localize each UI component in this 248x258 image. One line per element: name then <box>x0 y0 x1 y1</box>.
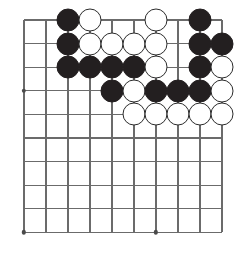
go-stone-black[interactable] <box>189 79 212 102</box>
go-stone-black[interactable] <box>79 56 102 79</box>
go-stone-white[interactable] <box>123 103 146 126</box>
star-point <box>22 230 26 234</box>
go-stone-black[interactable] <box>189 9 212 32</box>
go-stone-black[interactable] <box>123 56 146 79</box>
go-stone-white[interactable] <box>167 103 190 126</box>
grid-line-horizontal <box>24 232 222 233</box>
go-stone-black[interactable] <box>57 9 80 32</box>
go-stone-white[interactable] <box>145 32 168 55</box>
go-board-figure <box>0 0 248 258</box>
go-stone-black[interactable] <box>189 32 212 55</box>
go-stone-black[interactable] <box>189 56 212 79</box>
grid-line-horizontal <box>24 161 222 162</box>
go-stone-white[interactable] <box>145 56 168 79</box>
go-stone-white[interactable] <box>123 79 146 102</box>
star-point <box>22 89 26 93</box>
go-stone-black[interactable] <box>167 79 190 102</box>
go-stone-white[interactable] <box>79 32 102 55</box>
go-stone-white[interactable] <box>211 56 234 79</box>
grid-line-vertical <box>177 20 178 232</box>
go-stone-black[interactable] <box>101 79 124 102</box>
go-stone-black[interactable] <box>57 32 80 55</box>
go-stone-white[interactable] <box>123 32 146 55</box>
go-stone-white[interactable] <box>145 103 168 126</box>
go-stone-white[interactable] <box>79 9 102 32</box>
go-stone-white[interactable] <box>189 103 212 126</box>
go-stone-white[interactable] <box>211 79 234 102</box>
grid-line-horizontal <box>24 208 222 209</box>
go-board[interactable] <box>0 0 248 258</box>
grid-line-horizontal <box>24 185 222 186</box>
go-stone-black[interactable] <box>211 32 234 55</box>
go-stone-black[interactable] <box>145 79 168 102</box>
grid-line-vertical <box>45 20 46 232</box>
star-point <box>154 230 158 234</box>
go-stone-black[interactable] <box>57 56 80 79</box>
go-stone-white[interactable] <box>211 103 234 126</box>
go-stone-white[interactable] <box>101 32 124 55</box>
go-stone-black[interactable] <box>101 56 124 79</box>
grid-line-horizontal <box>24 137 222 138</box>
go-stone-white[interactable] <box>145 9 168 32</box>
grid-line-vertical <box>23 20 24 232</box>
